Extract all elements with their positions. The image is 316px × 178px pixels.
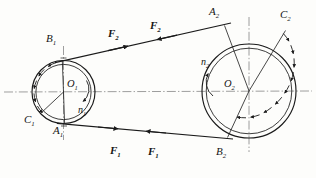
point-label-b1: B1 [46, 33, 56, 47]
small-pulley-wrap-arrows [34, 62, 57, 112]
point-label-c1: C1 [24, 114, 35, 128]
center-label-o2: O2 [224, 79, 235, 92]
large-radius-to-c2 [249, 31, 286, 92]
speed-label-n2: n2 [201, 57, 209, 69]
force-arrow-f2-left [108, 46, 128, 51]
force-label-f1-left: F1 [110, 145, 121, 159]
belt-lower-line [57, 123, 233, 139]
force-arrow-f1-left [98, 127, 118, 129]
center-label-o1: O1 [67, 79, 78, 92]
large-pulley-wrap-arrows [237, 34, 294, 118]
small-radius-to-a1 [64, 92, 65, 123]
point-label-a2: A2 [209, 6, 219, 20]
rotation-indicator-n1 [83, 81, 89, 102]
force-label-f1-right: F1 [148, 146, 159, 160]
rotation-indicator-n2 [206, 74, 213, 97]
belt-drive-figure: B1 C1 A1 A2 C2 B2 O1 O2 n1 n2 F2 F2 F1 F… [0, 0, 316, 178]
point-label-a1: A1 [53, 125, 63, 139]
speed-label-n1: n1 [78, 105, 86, 117]
belt-lower-span [57, 123, 233, 139]
force-label-f2-left: F2 [108, 28, 119, 42]
horizontal-centerline [4, 91, 312, 92]
large-radius-to-b2 [228, 91, 250, 138]
force-arrow-f2-right [157, 35, 177, 40]
point-label-b2: B2 [216, 146, 226, 160]
small-radius-to-c1 [41, 92, 64, 114]
force-label-f2-right: F2 [150, 20, 161, 34]
point-label-c2: C2 [280, 9, 291, 23]
